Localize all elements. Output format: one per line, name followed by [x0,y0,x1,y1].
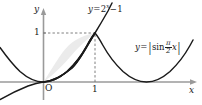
y-axis-arrowhead [41,8,46,15]
sin-label-fraction-denominator: 2 [165,48,172,55]
origin-label: O [45,84,52,93]
y-tick-label-1: 1 [34,28,40,37]
sin-label-close-bar: | [177,42,180,54]
exp-label-equals: = [93,4,101,14]
sin-label-fraction: π2 [165,40,172,55]
x-axis-label: x [189,86,194,95]
x-tick-label-1: 1 [92,85,98,94]
exponential-curve-label: y=2x−1 [88,4,123,13]
y-axis-label: y [34,5,39,14]
math-figure: y x O 1 1 y=2x−1 y=|sinπ2x| [0,0,202,105]
sin-label-equals: = [140,42,148,52]
sin-label-open-bar: | [148,42,151,54]
exp-label-constant: 1 [117,4,122,14]
abs-sine-curve-label: y=|sinπ2x| [135,40,181,55]
shaded-region [44,33,96,82]
sin-label-function: sin [152,42,165,52]
sin-label-variable: x [172,42,177,52]
x-axis-arrowhead [190,79,197,84]
